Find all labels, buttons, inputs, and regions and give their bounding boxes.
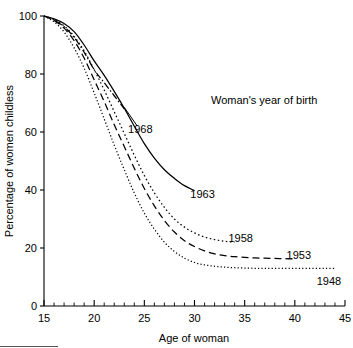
series-line-1953: [44, 16, 295, 259]
series-line-1948: [44, 16, 335, 268]
series-line-1968: [44, 16, 124, 109]
data-series-group: [44, 16, 335, 268]
x-tick-label: 45: [339, 312, 351, 324]
series-label-1968: 1968: [128, 123, 152, 135]
x-axis-title: Age of woman: [159, 332, 229, 344]
series-label-1958: 1958: [228, 232, 252, 244]
x-tick-label: 35: [239, 312, 251, 324]
series-line-1963: [44, 16, 195, 191]
y-axis-tick-labels: 020406080100: [19, 10, 37, 312]
line-chart: 020406080100 15202530354045 196819631958…: [0, 0, 353, 348]
x-tick-label: 30: [188, 312, 200, 324]
x-tick-label: 40: [289, 312, 301, 324]
chart-annotation-label: Woman's year of birth: [211, 94, 317, 106]
y-axis-ticks: [40, 16, 44, 306]
y-tick-label: 20: [25, 242, 37, 254]
series-label-1963: 1963: [190, 188, 214, 200]
series-label-1948: 1948: [317, 275, 341, 287]
x-tick-label: 20: [88, 312, 100, 324]
series-labels: 19681963195819531948: [128, 123, 341, 287]
y-tick-label: 60: [25, 126, 37, 138]
x-axis-ticks: [44, 300, 345, 306]
series-label-1953: 1953: [287, 249, 311, 261]
y-tick-label: 80: [25, 68, 37, 80]
x-tick-label: 25: [138, 312, 150, 324]
x-axis-tick-labels: 15202530354045: [38, 312, 351, 324]
y-tick-label: 40: [25, 184, 37, 196]
y-axis-title: Percentage of women childless: [3, 84, 15, 237]
chart-container: 020406080100 15202530354045 196819631958…: [0, 0, 353, 348]
y-tick-label: 0: [31, 300, 37, 312]
y-tick-label: 100: [19, 10, 37, 22]
x-tick-label: 15: [38, 312, 50, 324]
